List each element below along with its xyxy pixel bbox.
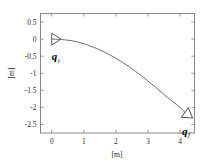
axes-frame xyxy=(41,14,195,134)
x-tick-label: 2 xyxy=(114,137,118,146)
x-tick-label: 0 xyxy=(50,137,54,146)
x-tick-label: 3 xyxy=(146,137,150,146)
y-tick-label: -1 xyxy=(30,69,36,78)
y-tick-label: -2 xyxy=(30,103,36,112)
y-tick-label: -2.5 xyxy=(25,120,37,129)
y-tick-label: 0 xyxy=(33,35,37,44)
initial-pose-subscript: i xyxy=(58,57,60,65)
y-tick-label: -1.5 xyxy=(25,86,37,95)
y-axis-label: [m] xyxy=(7,68,16,79)
plot-canvas: 01234 0.50-0.5-1-1.5-2-2.5 [m] [m] qiqf xyxy=(0,0,206,167)
trajectory-figure: 01234 0.50-0.5-1-1.5-2-2.5 [m] [m] qiqf xyxy=(0,0,206,167)
x-axis-label: [m] xyxy=(112,150,123,159)
y-tick-label: -0.5 xyxy=(25,52,37,61)
x-tick-label: 1 xyxy=(82,137,86,146)
y-tick-label: 0.5 xyxy=(27,18,37,27)
x-tick-label: 4 xyxy=(178,137,182,146)
